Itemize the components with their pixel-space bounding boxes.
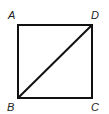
diagonal-bd	[18, 25, 92, 98]
vertex-label-b: B	[7, 101, 14, 113]
vertex-label-c: C	[91, 101, 99, 113]
vertex-label-a: A	[7, 9, 15, 21]
vertex-label-d: D	[91, 9, 99, 21]
square-diagram: A D B C	[0, 0, 109, 114]
